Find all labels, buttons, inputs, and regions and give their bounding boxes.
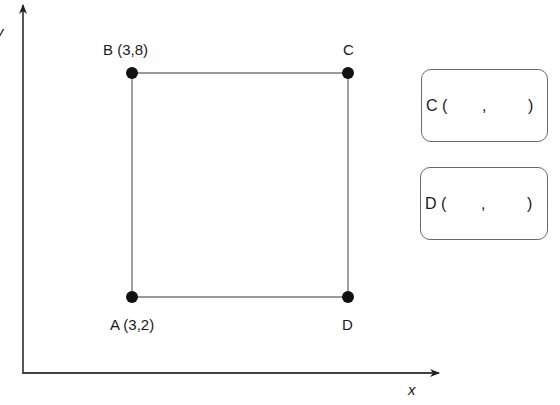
x-axis-label: x xyxy=(408,382,416,398)
point-D xyxy=(342,291,354,303)
open-paren: ( xyxy=(442,97,482,115)
answer-box-D[interactable]: D ( , ) xyxy=(420,167,548,240)
square-ABCD xyxy=(132,73,348,297)
comma: , xyxy=(481,195,527,213)
point-label-C: C xyxy=(343,42,354,58)
point-C xyxy=(342,67,354,79)
close-paren: ) xyxy=(528,97,533,115)
close-paren: ) xyxy=(527,195,532,213)
y-axis-label: y xyxy=(0,24,4,40)
answer-box-C[interactable]: C ( , ) xyxy=(421,69,548,142)
point-label-B: B (3,8) xyxy=(103,42,148,58)
answer-name-C: C xyxy=(426,97,442,115)
point-B xyxy=(126,67,138,79)
point-A xyxy=(126,291,138,303)
open-paren: ( xyxy=(441,195,481,213)
comma: , xyxy=(482,97,528,115)
point-label-D: D xyxy=(342,317,353,333)
point-label-A: A (3,2) xyxy=(110,317,154,333)
answer-name-D: D xyxy=(425,195,441,213)
